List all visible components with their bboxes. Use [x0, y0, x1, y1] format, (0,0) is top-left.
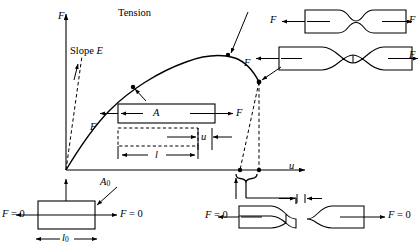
label-zero-force-left: F = 0	[2, 209, 25, 220]
specimen-necking-severe	[256, 47, 418, 70]
curve-point-uniform	[131, 85, 135, 89]
elongation-brace	[236, 174, 257, 182]
permanent-elongation-callout	[236, 178, 322, 204]
axis-point-total	[257, 168, 261, 172]
force-elongation-curve	[66, 56, 259, 170]
detail-deformed-specimen	[100, 104, 233, 123]
label-force-detail-left: F	[90, 122, 96, 133]
label-elongation-u: u	[201, 132, 206, 143]
label-force-detail-right: F	[236, 108, 242, 119]
specimen-fractured-right-half	[307, 206, 385, 228]
leader-necking-point	[231, 12, 248, 53]
axis-label-force: F	[58, 11, 64, 22]
label-area-original: A0	[100, 177, 110, 188]
leader-uniform-point	[135, 89, 146, 101]
slope-e-dashed-line	[66, 56, 82, 170]
original-specimen-bottom-left	[16, 179, 117, 239]
specimen-fractured-left-half	[218, 206, 296, 228]
label-force-mid-left: F	[244, 58, 250, 69]
slope-e-pointer-arrow	[74, 64, 78, 80]
fracture-dashed-lines	[240, 82, 259, 170]
label-force-top-left: F	[270, 15, 276, 26]
leader-fracture-point	[262, 67, 281, 80]
label-length-current: l	[155, 150, 158, 161]
chart-title: Tension	[118, 8, 151, 19]
axis-label-elongation: u	[289, 161, 294, 172]
label-area-current: A	[153, 108, 159, 119]
label-force-top-right: F	[409, 15, 415, 26]
label-length-original: l0	[62, 233, 69, 244]
label-zero-force-frac-right: F = 0	[388, 210, 411, 221]
label-zero-force-frac-left: F = 0	[205, 210, 228, 221]
detail-original-specimen-dashed	[118, 128, 232, 150]
detail-length-dimension	[118, 146, 198, 159]
label-zero-force-right: F = 0	[120, 209, 143, 220]
label-force-mid-right: F	[409, 50, 415, 61]
slope-e-label: Slope E	[70, 46, 103, 57]
specimen-necking-top	[282, 10, 412, 33]
axis-point-permanent	[238, 168, 242, 172]
curve-point-necking	[226, 53, 230, 57]
